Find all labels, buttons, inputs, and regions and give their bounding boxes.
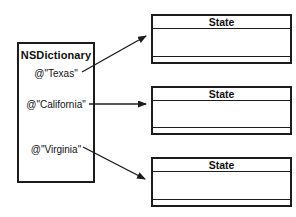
dict-key-texas: @"Texas" xyxy=(19,68,93,80)
state-box-austin: State capital = @"Austin" population = 1… xyxy=(151,14,292,64)
state-box-austin-body: capital = @"Austin" population = 18,000,… xyxy=(153,29,290,57)
state-box-sacramento-empty-row xyxy=(153,128,290,133)
nsdictionary-diagram: NSDictionary @"Texas" @"California" @"Vi… xyxy=(0,0,296,217)
nsdictionary-box: NSDictionary @"Texas" @"California" @"Vi… xyxy=(17,42,95,183)
state-box-sacramento-title: State xyxy=(153,88,290,101)
nsdictionary-title: NSDictionary xyxy=(19,49,93,61)
state-box-austin-empty-row xyxy=(153,57,290,62)
state-box-sacramento-body: capital = @"Sacramento" population = 31,… xyxy=(153,101,290,128)
state-box-richmond-title: State xyxy=(153,159,290,172)
state-box-richmond-empty-row xyxy=(153,200,290,205)
state-box-richmond-body: capital = @"Richmond" population = 7,000… xyxy=(153,172,290,200)
dict-key-virginia: @"Virginia" xyxy=(19,144,93,156)
state-box-sacramento: State capital = @"Sacramento" population… xyxy=(151,86,292,135)
state-box-austin-title: State xyxy=(153,16,290,29)
state-box-richmond: State capital = @"Richmond" population =… xyxy=(151,157,292,207)
dict-key-california: @"California" xyxy=(19,99,93,111)
